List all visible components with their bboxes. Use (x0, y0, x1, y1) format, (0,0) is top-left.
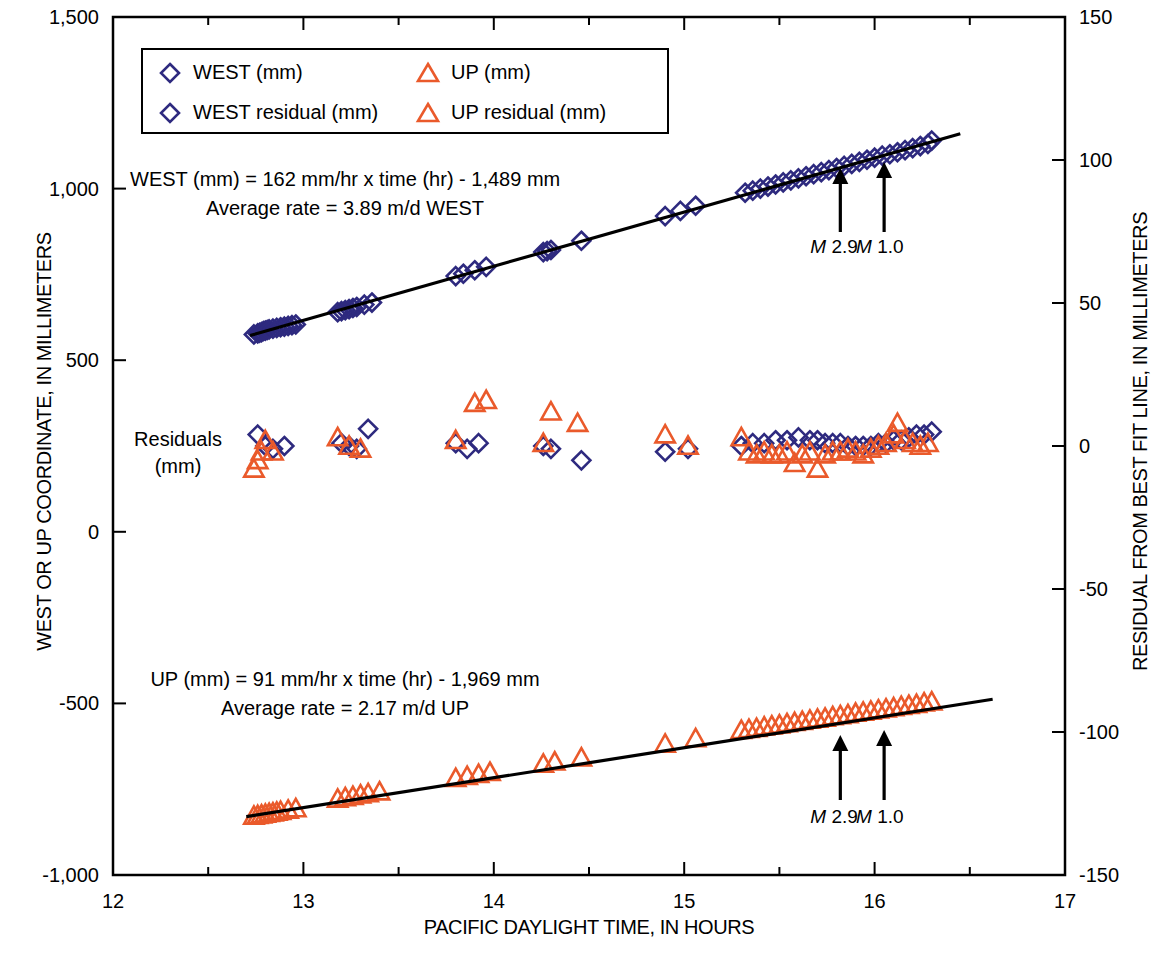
magnitude-symbol: M (856, 806, 872, 827)
y-tick-label-right: 0 (1079, 435, 1090, 457)
y-tick-label-right: -150 (1079, 864, 1119, 886)
y-tick-label-right: 150 (1079, 6, 1112, 28)
magnitude-symbol: M (810, 806, 826, 827)
magnitude-label-west-29: M 2.9 (810, 236, 858, 258)
y-tick-label-left: 500 (66, 349, 99, 371)
magnitude-symbol: M (810, 236, 826, 257)
x-tick-label: 13 (292, 890, 314, 912)
y-tick-label-left: 1,500 (49, 6, 99, 28)
y-tick-label-left: 1,000 (49, 178, 99, 200)
magnitude-label-up-29: M 2.9 (810, 806, 858, 828)
up-average-rate: Average rate = 2.17 m/d UP (130, 697, 560, 720)
data-point-diamond (359, 420, 377, 438)
legend-triangle-icon (415, 101, 441, 125)
legend-item[interactable]: UP (mm) (415, 60, 531, 85)
legend-item[interactable]: WEST residual (mm) (157, 100, 378, 125)
legend-label: UP (mm) (451, 61, 531, 83)
magnitude-label-up-10: M 1.0 (856, 806, 904, 828)
magnitude-value: 1.0 (872, 236, 904, 257)
residuals-label: Residuals(mm) (118, 428, 238, 478)
data-point-triangle (568, 414, 587, 431)
legend-label: UP residual (mm) (451, 101, 606, 123)
magnitude-value: 1.0 (872, 806, 904, 827)
data-point-diamond (572, 451, 590, 469)
residuals-label-line: Residuals (118, 428, 238, 451)
legend-triangle-icon (415, 61, 441, 85)
legend-label: WEST residual (mm) (193, 101, 378, 123)
y-tick-label-left: 0 (88, 521, 99, 543)
legend-box: WEST (mm)UP (mm)WEST residual (mm)UP res… (141, 48, 669, 134)
data-point-diamond (470, 434, 488, 452)
y-tick-label-right: 50 (1079, 292, 1101, 314)
west-equation: WEST (mm) = 162 mm/hr x time (hr) - 1,48… (130, 168, 560, 191)
west-equation-block: WEST (mm) = 162 mm/hr x time (hr) - 1,48… (130, 168, 560, 220)
x-tick-label: 15 (673, 890, 695, 912)
y-axis-left-title: WEST OR UP COORDINATE, IN MILLIMETERS (33, 162, 56, 722)
magnitude-value: 2.9 (826, 806, 858, 827)
x-tick-label: 12 (102, 890, 124, 912)
data-point-triangle (888, 414, 907, 431)
y-tick-label-left: -500 (59, 692, 99, 714)
x-tick-label: 14 (483, 890, 505, 912)
legend-diamond-icon (157, 101, 183, 125)
west-average-rate: Average rate = 3.89 m/d WEST (130, 197, 560, 220)
legend-label: WEST (mm) (193, 61, 303, 83)
best-fit-line (250, 134, 960, 336)
figure-container: 121314151617-1,000-50005001,0001,500-150… (0, 0, 1159, 955)
magnitude-arrow-head (876, 730, 892, 746)
x-tick-label: 17 (1054, 890, 1076, 912)
magnitude-label-west-10: M 1.0 (856, 236, 904, 258)
x-tick-label: 16 (863, 890, 885, 912)
data-point-triangle (541, 402, 560, 419)
y-tick-label-right: 100 (1079, 149, 1112, 171)
residuals-label-line: (mm) (118, 455, 238, 478)
up-equation: UP (mm) = 91 mm/hr x time (hr) - 1,969 m… (130, 668, 560, 691)
y-tick-label-right: -50 (1079, 578, 1108, 600)
y-tick-label-left: -1,000 (42, 864, 99, 886)
magnitude-arrow-head (832, 735, 848, 751)
legend-item[interactable]: WEST (mm) (157, 60, 303, 85)
y-axis-right-title: RESIDUAL FROM BEST FIT LINE, IN MILLIMET… (1129, 162, 1152, 722)
legend-diamond-icon (157, 61, 183, 85)
data-point-triangle (655, 425, 674, 442)
x-axis-title: PACIFIC DAYLIGHT TIME, IN HOURS (113, 916, 1065, 939)
y-tick-label-right: -100 (1079, 721, 1119, 743)
data-point-diamond (656, 443, 674, 461)
up-equation-block: UP (mm) = 91 mm/hr x time (hr) - 1,969 m… (130, 668, 560, 720)
magnitude-symbol: M (856, 236, 872, 257)
magnitude-value: 2.9 (826, 236, 858, 257)
legend-item[interactable]: UP residual (mm) (415, 100, 606, 125)
